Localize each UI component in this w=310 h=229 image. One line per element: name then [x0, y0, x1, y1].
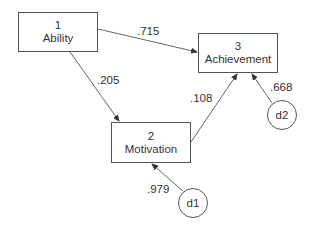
node-label: Achievement [205, 53, 271, 66]
node-number: 1 [55, 19, 61, 32]
node-motivation: 2 Motivation [111, 122, 191, 163]
coef-ability-achievement: .715 [137, 25, 159, 37]
node-achievement: 3 Achievement [198, 33, 278, 73]
disturbance-d1: d1 [178, 188, 208, 218]
node-label: Ability [43, 32, 74, 45]
node-label: Motivation [125, 143, 177, 156]
disturbance-label: d1 [187, 197, 200, 209]
coef-d1-motivation: .979 [147, 183, 169, 195]
coef-d2-achievement: .668 [270, 81, 292, 93]
coef-motivation-achievement: .108 [190, 92, 212, 104]
arrow-motivation-achievement [191, 74, 237, 142]
arrow-d2-achievement [252, 74, 272, 103]
node-number: 3 [235, 40, 241, 53]
disturbance-label: d2 [276, 109, 289, 121]
node-number: 2 [148, 130, 154, 143]
disturbance-d2: d2 [267, 100, 297, 130]
node-ability: 1 Ability [18, 12, 98, 52]
arrow-ability-motivation [70, 52, 119, 121]
coef-ability-motivation: .205 [97, 74, 119, 86]
